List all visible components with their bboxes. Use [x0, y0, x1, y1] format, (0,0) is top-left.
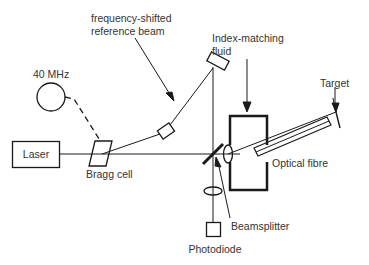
laser-label: Laser [23, 148, 50, 160]
fibre-label: Optical fibre [272, 157, 328, 169]
reference-beam-path [170, 68, 213, 125]
optical-setup-diagram: Laser 40 MHz Bragg cell frequency-shifte… [0, 0, 369, 265]
rf-drive-line [65, 97, 101, 142]
mirror-1 [157, 123, 174, 139]
reference-beam-label-2: reference beam [91, 25, 165, 37]
target-label: Target [320, 77, 349, 89]
reference-arrowhead [166, 92, 174, 101]
fluid-arrowhead [243, 102, 251, 112]
fibre-beam [228, 112, 336, 154]
beamsplitter-arrowhead [215, 157, 221, 167]
reference-pointer [135, 38, 171, 96]
photodiode-label: Photodiode [188, 243, 241, 255]
bragg-cell-label: Bragg cell [86, 168, 133, 180]
fluid-label-2: fluid [212, 45, 231, 57]
target-arrowhead [332, 103, 339, 112]
beamsplitter-pointer [218, 162, 230, 218]
oscillator-label: 40 MHz [33, 68, 69, 80]
oscillator-circle [37, 83, 65, 111]
reference-beam-label-1: frequency-shifted [91, 12, 172, 24]
photodiode-box [207, 223, 221, 237]
fluid-cell [230, 116, 267, 190]
fluid-label-1: Index-matching [212, 32, 284, 44]
beamsplitter-label: Beamsplitter [231, 220, 290, 232]
